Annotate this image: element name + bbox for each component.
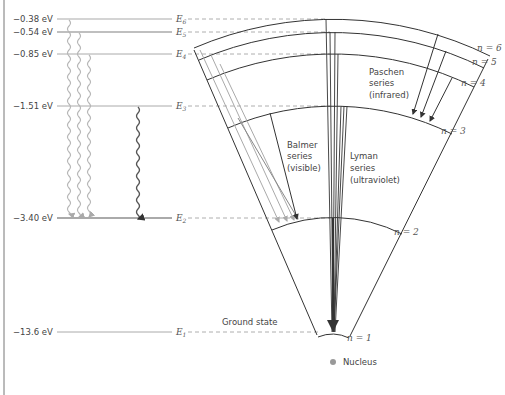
bohr-model-diagram: −0.38 eV −0.54 eV −0.85 eV −1.51 eV −3.4… xyxy=(0,0,505,395)
paschen-arrow-6 xyxy=(413,34,438,114)
svg-text:(visible): (visible) xyxy=(287,163,321,173)
balmer-arrow-6 xyxy=(200,50,279,222)
orbit-label-n5: n = 5 xyxy=(472,57,497,67)
orbit-label-n1: n = 1 xyxy=(347,333,372,343)
e-label-5: E5 xyxy=(175,27,187,38)
paschen-label: Paschen series (infrared) xyxy=(369,67,409,100)
svg-text:Lyman: Lyman xyxy=(350,151,378,161)
energy-label-5: −0.54 eV xyxy=(13,27,53,37)
lyman-label: Lyman series (ultraviolet) xyxy=(350,151,400,185)
balmer-arrow-5 xyxy=(211,55,287,221)
orbit-label-n2: n = 2 xyxy=(394,227,419,237)
svg-text:(ultraviolet): (ultraviolet) xyxy=(350,175,400,185)
svg-text:series: series xyxy=(350,163,376,173)
wavy-arrow-6-2 xyxy=(68,20,71,214)
nucleus-dot xyxy=(330,359,336,365)
dashed-connectors xyxy=(188,19,330,332)
e-label-3: E3 xyxy=(175,101,187,112)
svg-text:(infrared): (infrared) xyxy=(369,90,409,100)
energy-label-1: −13.6 eV xyxy=(13,327,53,337)
wavy-arrow-3-2 xyxy=(137,107,140,219)
e-label-1: E1 xyxy=(175,327,186,338)
e-label-2: E2 xyxy=(175,213,187,224)
paschen-arrow-5 xyxy=(421,51,446,117)
energy-labels: −0.38 eV −0.54 eV −0.85 eV −1.51 eV −3.4… xyxy=(13,14,53,337)
wavy-arrow-5-2 xyxy=(78,33,81,217)
svg-text:series: series xyxy=(287,151,313,161)
balmer-label: Balmer series (visible) xyxy=(287,140,321,173)
balmer-arrows xyxy=(200,50,298,222)
orbit-fan xyxy=(194,19,490,338)
nucleus-label: Nucleus xyxy=(343,357,377,367)
orbit-labels: n = 6 n = 5 n = 4 n = 3 n = 2 n = 1 xyxy=(347,43,502,343)
svg-text:Paschen: Paschen xyxy=(369,67,404,77)
svg-text:series: series xyxy=(369,78,395,88)
energy-label-4: −0.85 eV xyxy=(13,49,53,59)
e-label-4: E4 xyxy=(175,49,187,60)
fan-left-edge xyxy=(194,50,317,335)
wavy-transitions xyxy=(68,20,140,219)
svg-text:Balmer: Balmer xyxy=(287,140,318,150)
energy-label-2: −3.40 eV xyxy=(13,213,53,223)
orbit-label-n4: n = 4 xyxy=(461,78,486,88)
orbit-label-n6: n = 6 xyxy=(477,43,502,53)
orbit-label-n3: n = 3 xyxy=(441,126,466,136)
energy-label-3: −1.51 eV xyxy=(13,101,53,111)
orbit-n6 xyxy=(194,19,490,56)
wavy-arrow-4-2 xyxy=(88,55,91,217)
e-labels: E6 E5 E4 E3 E2 E1 xyxy=(175,14,187,338)
orbit-n1 xyxy=(318,334,349,338)
fan-right-edge xyxy=(350,59,488,336)
lyman-lines xyxy=(326,19,347,332)
ground-state-label: Ground state xyxy=(222,317,278,327)
energy-levels xyxy=(57,19,172,332)
energy-label-6: −0.38 eV xyxy=(13,14,53,24)
e-label-6: E6 xyxy=(175,14,187,25)
